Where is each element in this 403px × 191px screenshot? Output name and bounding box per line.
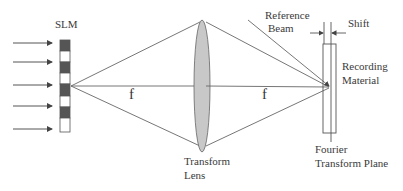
transform-lens-label-1: Transform bbox=[184, 155, 230, 168]
focal-length-left-label: f bbox=[129, 88, 134, 101]
slm-device bbox=[60, 40, 70, 132]
shift-label: Shift bbox=[348, 17, 369, 30]
recording-material-label-2: Material bbox=[342, 74, 379, 87]
rays-slm-to-lens bbox=[71, 22, 200, 146]
input-light-arrows bbox=[13, 43, 52, 129]
slm-label: SLM bbox=[55, 18, 78, 31]
fourier-plane-label-2: Transform Plane bbox=[315, 157, 388, 170]
recording-material-label-1: Recording bbox=[342, 60, 388, 73]
optical-diagram: SLM f f Reference Beam Shift Recording M… bbox=[0, 0, 403, 191]
focal-length-right-label: f bbox=[262, 88, 267, 101]
reference-beam-label-2: Beam bbox=[268, 22, 294, 35]
reference-beam-label-1: Reference bbox=[265, 9, 310, 22]
transform-lens-label-2: Lens bbox=[184, 169, 205, 182]
recording-material bbox=[323, 44, 336, 133]
rays-lens-to-focus bbox=[206, 22, 329, 146]
fourier-plane-label-1: Fourier bbox=[315, 143, 347, 156]
